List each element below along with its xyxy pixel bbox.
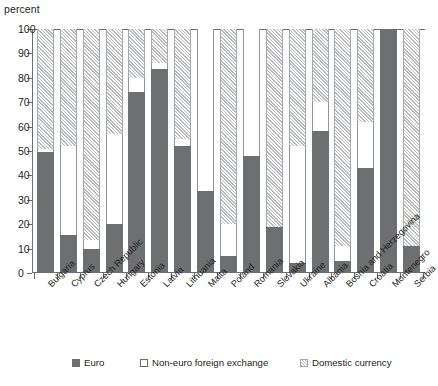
x-axis-tick (34, 273, 35, 279)
y-axis-tick-label: 60 (18, 121, 21, 132)
bar-segment-domestic[interactable] (83, 29, 100, 240)
bars-layer (32, 29, 425, 273)
y-axis-tick-label: 80 (18, 73, 21, 84)
y-axis-title: percent (4, 3, 40, 15)
bar[interactable] (243, 29, 260, 273)
chart-legend: EuroNon-euro foreign exchangeDomestic cu… (0, 357, 436, 375)
bar-segment-non-euro-fx[interactable] (60, 146, 77, 235)
bar-segment-non-euro-fx[interactable] (312, 102, 329, 131)
legend-item[interactable]: Non-euro foreign exchange (140, 357, 268, 368)
bar-segment-domestic[interactable] (151, 29, 168, 63)
bar[interactable] (220, 29, 237, 273)
bar[interactable] (266, 29, 283, 273)
bar[interactable] (357, 29, 374, 273)
bar-segment-domestic[interactable] (266, 29, 283, 227)
bar[interactable] (151, 29, 168, 273)
bar-segment-domestic[interactable] (220, 29, 237, 224)
bar[interactable] (37, 29, 54, 273)
bar[interactable] (312, 29, 329, 273)
bar-segment-non-euro-fx[interactable] (220, 224, 237, 256)
bar-segment-domestic[interactable] (334, 29, 351, 246)
bar-segment-domestic[interactable] (312, 29, 329, 102)
legend-item[interactable]: Domestic currency (300, 357, 391, 368)
bar-segment-domestic[interactable] (289, 29, 306, 146)
bar-segment-non-euro-fx[interactable] (357, 122, 374, 168)
y-axis-tick-label: 70 (18, 97, 21, 108)
bar-segment-domestic[interactable] (357, 29, 374, 122)
bar[interactable] (197, 29, 214, 273)
bar-segment-non-euro-fx[interactable] (334, 246, 351, 261)
bar[interactable] (60, 29, 77, 273)
y-axis-tick-label: 0 (18, 268, 21, 279)
bar[interactable] (106, 29, 123, 273)
nonfx-swatch (140, 359, 148, 367)
y-axis-tick-label: 100 (18, 24, 21, 35)
bar-segment-euro[interactable] (151, 69, 168, 273)
y-axis-tick-label: 20 (18, 219, 21, 230)
bar[interactable] (334, 29, 351, 273)
bar-segment-euro[interactable] (312, 131, 329, 273)
euro-swatch (72, 359, 80, 367)
y-axis-tick-label: 10 (18, 243, 21, 254)
bar-segment-non-euro-fx[interactable] (128, 78, 145, 93)
bar[interactable] (403, 29, 420, 273)
y-axis-tick-label: 30 (18, 195, 21, 206)
bar[interactable] (83, 29, 100, 273)
bar-segment-non-euro-fx[interactable] (174, 139, 191, 146)
bar-segment-euro[interactable] (243, 156, 260, 273)
bar-segment-euro[interactable] (37, 152, 54, 273)
plot-area: 0102030405060708090100 (32, 29, 425, 273)
bar-segment-non-euro-fx[interactable] (289, 146, 306, 263)
bar-segment-non-euro-fx[interactable] (37, 149, 54, 153)
y-axis-tick-label: 90 (18, 48, 21, 59)
bar-segment-domestic[interactable] (60, 29, 77, 146)
bar[interactable] (174, 29, 191, 273)
bar-segment-non-euro-fx[interactable] (151, 63, 168, 69)
bar-segment-non-euro-fx[interactable] (83, 240, 100, 249)
bar[interactable] (289, 29, 306, 273)
bar-segment-domestic[interactable] (37, 29, 54, 149)
x-axis-labels: BulgariaCyprusCzech RepublicHungaryEston… (0, 280, 436, 350)
bar-segment-non-euro-fx[interactable] (106, 134, 123, 224)
y-axis-tick-label: 50 (18, 146, 21, 157)
bar-segment-domestic[interactable] (174, 29, 191, 139)
bar-segment-euro[interactable] (174, 146, 191, 273)
legend-label: Non-euro foreign exchange (152, 357, 268, 368)
domestic-swatch (300, 359, 308, 367)
bar-segment-domestic[interactable] (128, 29, 145, 78)
bar-segment-non-euro-fx[interactable] (243, 29, 260, 156)
y-axis-tick-label: 40 (18, 170, 21, 181)
y-axis-tick (27, 273, 32, 274)
legend-item[interactable]: Euro (72, 357, 104, 368)
bar-segment-non-euro-fx[interactable] (197, 29, 214, 191)
legend-label: Euro (84, 357, 104, 368)
legend-label: Domestic currency (312, 357, 391, 368)
bar-segment-domestic[interactable] (106, 29, 123, 134)
